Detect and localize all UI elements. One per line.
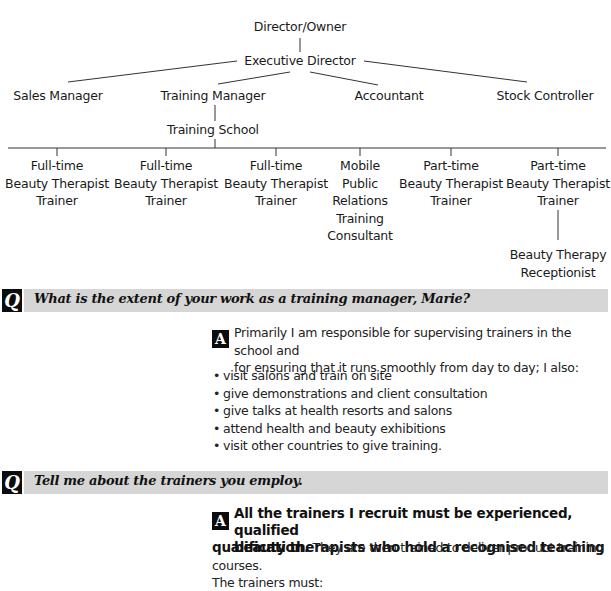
staff-line: Training: [327, 210, 393, 228]
staff-line: Public: [327, 175, 393, 193]
staff-line: Beauty Therapy: [510, 246, 607, 264]
bullet-item: attend health and beauty exhibitions: [213, 420, 487, 438]
staff-line: Trainer: [114, 192, 218, 210]
staff-line: Full-time: [114, 157, 218, 175]
answer-paragraph: qualification. They are then trained to …: [212, 539, 611, 591]
node-training-manager: Training Manager: [161, 87, 266, 105]
answer-line: Primarily I am responsible for supervisi…: [234, 324, 611, 359]
staff-line: Beauty Therapist: [114, 175, 218, 193]
staff-line: Beauty Therapist: [506, 175, 610, 193]
node-accountant: Accountant: [355, 87, 424, 105]
node-stock-controller: Stock Controller: [497, 87, 594, 105]
staff-line: Trainer: [224, 192, 328, 210]
answer-line: All the trainers I recruit must be exper…: [234, 505, 611, 539]
node-staff-parttime-2: Part-time Beauty Therapist Trainer: [506, 157, 610, 210]
answer-marker-icon: A: [212, 512, 229, 530]
node-staff-mobile-pr: Mobile Public Relations Training Consult…: [327, 157, 393, 245]
staff-line: Part-time: [399, 157, 503, 175]
staff-line: Part-time: [506, 157, 610, 175]
node-staff-fulltime-1: Full-time Beauty Therapist Trainer: [5, 157, 109, 210]
org-chart: Director/Owner Executive Director Sales …: [0, 0, 611, 285]
bullet-item: visit salons and train on site: [213, 367, 487, 385]
node-staff-fulltime-2: Full-time Beauty Therapist Trainer: [114, 157, 218, 210]
answer-bullet-list: visit salons and train on site give demo…: [213, 367, 487, 455]
staff-line: Relations: [327, 192, 393, 210]
staff-line: Receptionist: [510, 264, 607, 282]
staff-line: Beauty Therapist: [224, 175, 328, 193]
staff-line: Full-time: [5, 157, 109, 175]
staff-line: Full-time: [224, 157, 328, 175]
node-receptionist: Beauty Therapy Receptionist: [510, 246, 607, 281]
org-chart-connectors: [0, 0, 611, 285]
question-marker-icon: Q: [2, 471, 22, 494]
staff-line: Beauty Therapist: [399, 175, 503, 193]
answer-line: The trainers must:: [212, 574, 611, 591]
question-bar: What is the extent of your work as a tra…: [24, 289, 608, 312]
answer-marker-icon: A: [212, 330, 229, 348]
bullet-item: visit other countries to give training.: [213, 437, 487, 455]
staff-line: Mobile: [327, 157, 393, 175]
bullet-item: give demonstrations and client consultat…: [213, 385, 487, 403]
staff-line: Trainer: [5, 192, 109, 210]
staff-line: Trainer: [506, 192, 610, 210]
node-staff-fulltime-3: Full-time Beauty Therapist Trainer: [224, 157, 328, 210]
staff-line: Trainer: [399, 192, 503, 210]
node-director-owner: Director/Owner: [254, 18, 346, 36]
question-text: What is the extent of your work as a tra…: [34, 291, 470, 306]
answer-line: qualification. They are then trained to …: [212, 539, 611, 574]
bullet-item: give talks at health resorts and salons: [213, 402, 487, 420]
node-training-school: Training School: [167, 121, 259, 139]
node-sales-manager: Sales Manager: [13, 87, 102, 105]
staff-line: Beauty Therapist: [5, 175, 109, 193]
question-text: Tell me about the trainers you employ.: [34, 473, 303, 488]
node-executive-director: Executive Director: [244, 52, 355, 70]
question-marker-icon: Q: [2, 289, 22, 312]
question-bar: Tell me about the trainers you employ.: [24, 471, 608, 494]
node-staff-parttime-1: Part-time Beauty Therapist Trainer: [399, 157, 503, 210]
staff-line: Consultant: [327, 227, 393, 245]
